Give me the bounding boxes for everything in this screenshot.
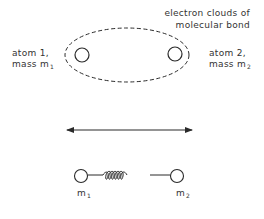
atom2-label: atom 2, xyxy=(209,48,246,58)
molecular-bond-diagram: electron clouds of molecular bond atom 1… xyxy=(0,0,264,219)
spring-coil-icon xyxy=(103,171,127,179)
atom1-label: atom 1, xyxy=(12,48,49,58)
spring-m2-label: m2 xyxy=(176,188,190,199)
atom2-mass-label: mass m2 xyxy=(209,59,251,70)
cloud-label-line2: molecular bond xyxy=(176,20,250,30)
spring-m1-label: m1 xyxy=(77,188,91,199)
spring-mass1-circle xyxy=(75,170,88,183)
atom2-circle xyxy=(168,47,182,61)
atom1-mass-label: mass m1 xyxy=(12,59,54,70)
cloud-label-line1: electron clouds of xyxy=(164,8,250,18)
electron-cloud-ellipse xyxy=(65,28,189,82)
atom1-circle xyxy=(75,48,89,62)
spring-mass2-circle xyxy=(171,170,184,183)
